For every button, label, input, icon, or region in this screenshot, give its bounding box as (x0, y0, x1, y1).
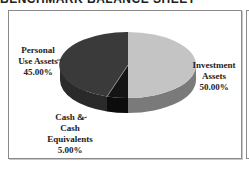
pie-top (59, 32, 196, 98)
label-investment-assets: Investment Assets 50.00% (190, 60, 238, 93)
label-personal-use-assets: Personal Use Assets 45.00% (18, 45, 58, 78)
label-cash-equivalents: Cash & Cash Equivalents 5.00% (45, 112, 95, 156)
